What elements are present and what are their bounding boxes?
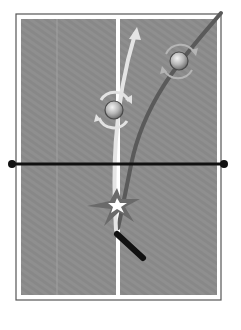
ball (105, 101, 123, 119)
ball (170, 52, 188, 70)
table (16, 14, 221, 300)
net-post-right (220, 160, 228, 168)
net-post-left (8, 160, 16, 168)
table-tennis-diagram (0, 0, 241, 330)
